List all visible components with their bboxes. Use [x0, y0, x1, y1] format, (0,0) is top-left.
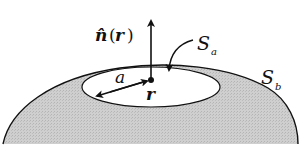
surface-a-label: S [197, 32, 210, 54]
normal-label-r: r [115, 25, 125, 45]
normal-label-hat: n̂ [95, 25, 107, 45]
surface-b-label: S [261, 66, 274, 88]
surface-b-subscript: b [275, 81, 281, 92]
radius-label: a [115, 67, 125, 87]
surface-diagram: n̂ ( r ) S a S b a r [0, 0, 305, 157]
point-label: r [146, 84, 156, 104]
normal-label-close: ) [127, 25, 134, 45]
surface-a-subscript: a [211, 46, 217, 57]
point-r-dot [148, 77, 154, 83]
